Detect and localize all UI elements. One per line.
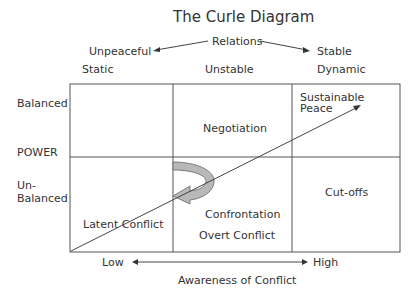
unbalanced-label-1: Un- bbox=[17, 179, 36, 192]
sustainable-peace-label-2: Peace bbox=[300, 102, 333, 115]
curved-arrow-icon bbox=[173, 162, 214, 204]
unstable-label: Unstable bbox=[205, 63, 254, 76]
latent-conflict-label: Latent Conflict bbox=[83, 218, 163, 231]
relations-label: Relations bbox=[212, 35, 263, 48]
arrow-right-icon bbox=[303, 47, 310, 53]
balanced-label: Balanced bbox=[17, 97, 68, 110]
awareness-label: Awareness of Conflict bbox=[178, 274, 296, 287]
low-label: Low bbox=[102, 256, 124, 269]
diagram-graphics bbox=[0, 0, 412, 290]
unbalanced-label-2: Balanced bbox=[17, 192, 68, 205]
diagram-title: The Curle Diagram bbox=[173, 8, 314, 26]
confrontation-label: Confrontation bbox=[205, 208, 280, 221]
stable-label: Stable bbox=[317, 45, 352, 58]
arrow-left-icon bbox=[153, 47, 160, 52]
static-label: Static bbox=[82, 63, 113, 76]
dynamic-label: Dynamic bbox=[317, 63, 366, 76]
high-label: High bbox=[313, 256, 338, 269]
power-label: POWER bbox=[17, 146, 58, 159]
arrow-left-icon bbox=[132, 259, 138, 265]
unpeaceful-label: Unpeaceful bbox=[89, 45, 151, 58]
arrow-right-icon bbox=[302, 259, 308, 265]
arrowhead-icon bbox=[353, 105, 361, 111]
cutoffs-label: Cut-offs bbox=[325, 186, 368, 199]
negotiation-label: Negotiation bbox=[203, 122, 267, 135]
overt-conflict-label: Overt Conflict bbox=[199, 229, 275, 242]
